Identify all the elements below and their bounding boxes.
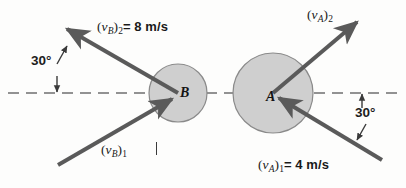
angle-label-right: 30° [355,106,375,120]
angle-label-left: 30° [31,54,51,68]
impact-diagram: (vB)2= 8 m/s (vA)2 (vB)1 (vA)1= 4 m/s 30… [0,0,406,188]
label-vb2-equals: = [123,19,131,34]
label-vb2: (vB)2= 8 m/s [97,20,168,36]
label-va1-equals: = [284,157,292,172]
label-va2: (vA)2 [307,8,333,24]
label-vb2-magnitude: 8 m/s [134,19,168,34]
sphere-a-label: A [266,90,275,104]
vector-vb2 [67,29,178,93]
label-va1: (vA)1= 4 m/s [258,158,329,174]
angle-right-lower-tick [357,124,366,140]
sphere-b-label: B [180,86,189,100]
label-vb1-index: 1 [122,149,127,159]
diagram-canvas [0,0,406,188]
angle-left-upper-tick [57,46,67,64]
label-va1-magnitude: 4 m/s [295,157,329,172]
text-caret [156,142,157,155]
label-vb1: (vB)1 [101,143,127,159]
label-va2-index: 2 [328,14,333,24]
